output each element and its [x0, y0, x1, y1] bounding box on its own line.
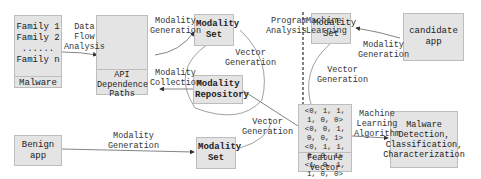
modality-generation-top-label: ModalityGeneration [150, 16, 201, 36]
result-line: Detection, [398, 130, 449, 140]
family-item: Family n [15, 55, 61, 66]
machine-learning-section-label: MachineLearning [306, 16, 347, 36]
modality-set-label: Modality Set [198, 142, 234, 164]
feature-vector-box: <0, 1, 1, 1, 0, 0> <0, 0, 1, 0, 0, 1> <0… [298, 104, 352, 172]
api-label: API Dependence Paths [97, 69, 147, 100]
malware-detection-box: Malware Detection, Classification, Chara… [390, 111, 458, 168]
modality-set-label: Modality Set [196, 19, 232, 41]
malware-box: Family 1 Family 2 ...... Family n Malwar… [14, 15, 62, 88]
vector-row: <0, 0, 1, 0, 0, 1> [299, 125, 351, 143]
result-line: Malware [406, 120, 442, 130]
modality-repository-label: Modality Repository [195, 79, 241, 101]
program-analysis-section-label: ProgramAnalysis [266, 16, 307, 36]
modality-generation-candidate-label: ModalityGeneration [358, 40, 409, 60]
result-line: Characterization [383, 150, 465, 160]
family-item: Family 2 [15, 33, 61, 44]
modality-set-bottom: Modality Set [196, 137, 236, 169]
malware-label: Malware [15, 76, 61, 89]
modality-collection-label: ModalityCollection [150, 68, 201, 88]
vector-generation-bottom-label: VectorGeneration [242, 117, 293, 137]
machine-learning-algorithm-label: MachineLearningAlgorithm [354, 109, 400, 139]
family-item: ...... [15, 44, 61, 55]
family-item: Family 1 [15, 22, 61, 33]
modality-generation-benign-label: ModalityGeneration [108, 131, 159, 151]
benign-app-label: Benign app [15, 140, 61, 162]
feature-vector-label: Feature Vector [299, 152, 351, 173]
candidate-app-label: candidate app [404, 26, 463, 48]
benign-app-box: Benign app [14, 135, 62, 166]
data-flow-analysis-label: DataFlowAnalysis [64, 22, 105, 52]
vector-generation-right-label: VectorGeneration [317, 65, 368, 85]
candidate-app-box: candidate app [403, 13, 464, 61]
result-line: Classification, [386, 140, 463, 150]
vector-row: <0, 1, 1, 1, 0, 0> [299, 107, 351, 125]
vector-generation-mid-label: VectorGeneration [225, 48, 276, 68]
